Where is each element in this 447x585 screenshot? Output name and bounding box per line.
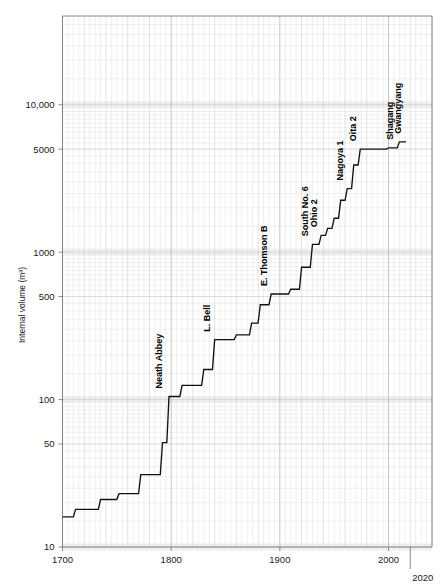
y-axis-title: Internal volume (m³) [17,267,27,343]
annotation-label: Neath Abbey [154,334,164,389]
annotation-label: Ohio 2 [309,199,319,227]
y-tick-label: 10 [44,541,55,552]
x-tick-label: 1800 [161,554,182,565]
chart-figure: 10,000500010005001005010 170018001900200… [0,0,447,585]
y-tick-label: 1000 [33,247,54,258]
annotation-label: Nagoya 1 [335,141,345,181]
chart-background [0,0,447,585]
annotation-label: L. Bell [202,305,212,332]
x-tick-label: 2000 [378,554,399,565]
y-tick-label: 500 [39,291,55,302]
x-tick-label: 1900 [269,554,290,565]
annotation-label: Gwangyang [393,83,403,134]
step-chart: 10,000500010005001005010 170018001900200… [0,0,447,585]
annotation-label: Oita 2 [348,116,358,141]
x-tick-label: 1700 [52,554,73,565]
x-tick-label-2020: 2020 [412,572,433,583]
y-tick-label: 50 [44,438,55,449]
y-tick-label: 100 [39,394,55,405]
y-tick-label: 10,000 [25,99,54,110]
annotation-label: E. Thomson B [259,225,269,286]
y-tick-label: 5000 [33,144,54,155]
